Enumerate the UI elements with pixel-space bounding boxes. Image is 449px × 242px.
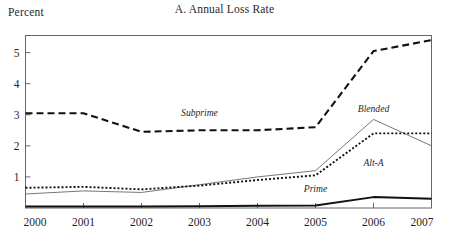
x-tick-label: 2007 xyxy=(411,216,434,228)
series-line-prime xyxy=(26,197,432,206)
y-tick-label: 4 xyxy=(14,78,20,90)
x-tick-label: 2004 xyxy=(246,216,269,228)
y-tick-label: 3 xyxy=(14,109,20,121)
y-axis-ticks xyxy=(26,53,31,177)
series-annotations: SubprimeBlendedAlt-APrime xyxy=(181,103,389,195)
x-tick-label: 2002 xyxy=(130,216,153,228)
x-tick-label: 2003 xyxy=(188,216,211,228)
x-axis-tick-labels: 20002001200220032004200520062007 xyxy=(24,216,434,228)
series-line-subprime xyxy=(26,40,432,132)
x-tick-label: 2000 xyxy=(24,216,47,228)
x-tick-label: 2006 xyxy=(362,216,385,228)
series-label-alt-a: Alt-A xyxy=(362,157,383,168)
x-tick-label: 2001 xyxy=(72,216,95,228)
y-tick-label: 5 xyxy=(14,47,20,59)
series-label-subprime: Subprime xyxy=(181,107,219,118)
figure-annual-loss-rate: Percent A. Annual Loss Rate SubprimeBlen… xyxy=(0,0,449,242)
y-axis-tick-labels: 12345 xyxy=(14,47,20,183)
series-label-prime: Prime xyxy=(303,183,328,194)
line-chart-plot: SubprimeBlendedAlt-APrime 12345 20002001… xyxy=(0,0,449,242)
y-tick-label: 2 xyxy=(14,140,20,152)
y-tick-label: 1 xyxy=(14,171,20,183)
series-label-blended: Blended xyxy=(358,103,390,114)
x-tick-label: 2005 xyxy=(304,216,327,228)
series-lines xyxy=(26,40,432,206)
